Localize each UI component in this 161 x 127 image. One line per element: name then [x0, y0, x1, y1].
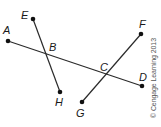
copyright-notice: © Cengage Learning 2013 [150, 38, 157, 118]
label-e: E [21, 9, 29, 21]
label-c: C [100, 61, 108, 73]
geometry-diagram: A B C D E F G H © Cengage Learning 2013 [0, 0, 161, 127]
segment-fg [82, 34, 141, 102]
label-d: D [139, 71, 147, 83]
point-e-dot [31, 17, 36, 22]
segment-ad [8, 41, 142, 86]
label-h: H [55, 96, 63, 108]
segment-eh [33, 19, 60, 92]
label-b: B [49, 41, 56, 53]
diagram-svg: A B C D E F G H [0, 0, 161, 127]
point-g-dot [80, 100, 85, 105]
point-a-dot [6, 39, 11, 44]
point-h-dot [58, 90, 63, 95]
point-d-dot [140, 84, 145, 89]
label-f: F [139, 18, 147, 30]
label-a: A [2, 24, 10, 36]
point-f-dot [139, 32, 144, 37]
label-g: G [76, 107, 85, 119]
